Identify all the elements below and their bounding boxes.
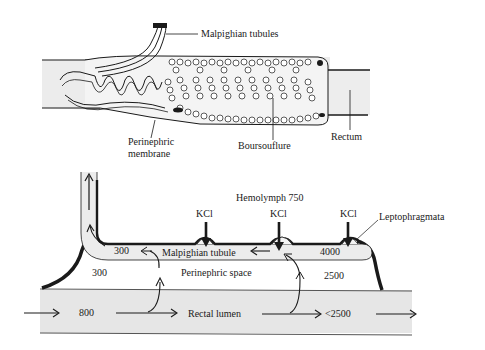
- label-tubule-left-value: 300: [114, 246, 129, 256]
- label-kcl-2: KCl: [270, 209, 287, 219]
- label-malpighian-tubule: Malpighian tubule: [162, 248, 236, 258]
- label-perinephric-left-value: 300: [92, 268, 107, 278]
- label-kcl-1: KCl: [196, 209, 213, 219]
- perinephric-membrane-left: [42, 245, 84, 288]
- label-tubule-right-value: 4000: [320, 247, 340, 257]
- diagram-canvas: [0, 0, 485, 350]
- rectum-anatomy-illustration: [42, 23, 370, 140]
- label-leptophragmata: Leptophragmata: [379, 212, 445, 222]
- label-rectum: Rectum: [331, 132, 362, 142]
- label-rectal-lumen: Rectal lumen: [188, 309, 241, 319]
- label-perinephric-membrane-line2: membrane: [128, 149, 170, 159]
- label-perinephric-space: Perinephric space: [181, 268, 252, 278]
- label-lumen-left-value: 800: [79, 308, 94, 318]
- label-kcl-3: KCl: [340, 209, 357, 219]
- label-hemolymph: Hemolymph 750: [236, 193, 304, 203]
- label-lumen-right-value: <2500: [325, 309, 351, 319]
- label-malpighian-tubules: Malpighian tubules: [201, 29, 279, 39]
- label-perinephric-right-value: 2500: [324, 271, 344, 281]
- label-boursouflure: Boursouflure: [238, 141, 291, 151]
- label-perinephric-membrane-line1: Perinephric: [128, 137, 174, 147]
